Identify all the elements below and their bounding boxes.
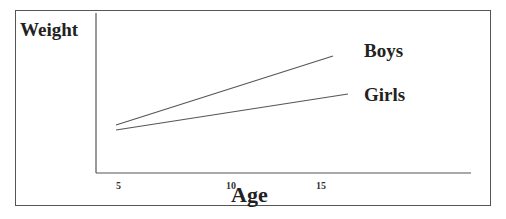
y-axis-label: Weight — [20, 19, 78, 41]
girls-series-label: Girls — [364, 84, 405, 106]
x-tick-5: 5 — [116, 180, 121, 191]
x-tick-15: 15 — [316, 180, 326, 191]
boys-line — [116, 56, 333, 125]
boys-series-label: Boys — [364, 40, 403, 62]
x-axis-label: Age — [231, 182, 268, 208]
girls-line — [116, 94, 348, 130]
